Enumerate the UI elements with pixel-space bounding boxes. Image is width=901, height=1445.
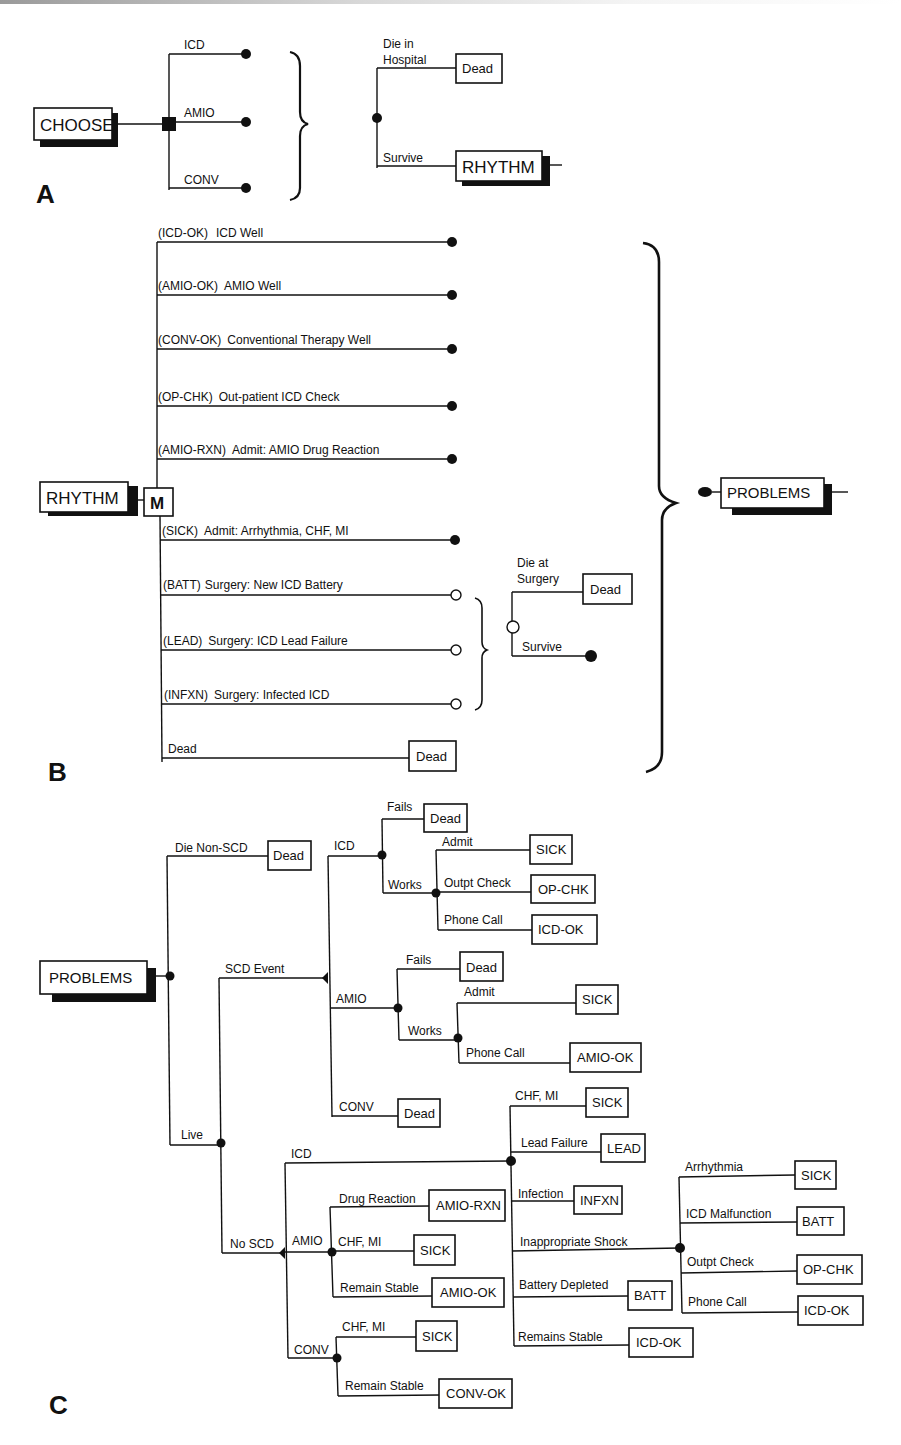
outcome-label: CHF, MI [338, 1235, 381, 1249]
outcome-label: Phone Call [444, 913, 503, 927]
problems-node-label: PROBLEMS [49, 969, 132, 986]
node-label: BATT [634, 1288, 666, 1303]
node-label: BATT [802, 1214, 834, 1229]
dead-node-label: Dead [430, 811, 461, 826]
markov-state-row[interactable]: (SICK)Admit: Arrhythmia, CHF, MI [160, 524, 460, 545]
node-label: LEAD [607, 1141, 641, 1156]
chance-node-icon [241, 117, 251, 127]
markov-state-row[interactable]: (OP-CHK)Out-patient ICD Check [157, 390, 457, 411]
markov-state-row[interactable]: (CONV-OK)Conventional Therapy Well [157, 333, 457, 354]
outcome-label: Admit [442, 835, 473, 849]
outcome-label: Inappropriate Shock [520, 1235, 628, 1249]
node-label: ICD-OK [804, 1303, 850, 1318]
chance-node-icon [166, 972, 175, 981]
markov-state-row[interactable]: (AMIO-OK)AMIO Well [157, 279, 457, 300]
scd-icd-label: ICD [334, 839, 355, 853]
outcome-label: Phone Call [688, 1295, 747, 1309]
noscd-amio-label: AMIO [292, 1234, 323, 1248]
outcome-label: CHF, MI [342, 1320, 385, 1334]
brace-icon [290, 52, 308, 200]
svg-text:(AMIO-OK)AMIO Well: (AMIO-OK)AMIO Well [158, 279, 281, 293]
dead-node-label: Dead [466, 960, 497, 975]
die-at-surgery-label-2: Surgery [517, 572, 559, 586]
noscd-icd-label: ICD [291, 1147, 312, 1161]
outcome-label: Remain Stable [345, 1379, 424, 1393]
node-label: SICK [420, 1243, 451, 1258]
node-label: AMIO-OK [440, 1285, 497, 1300]
panel-a: A CHOOSE ICD AMIO CONV Die in Hospital D… [34, 37, 562, 209]
panel-label-c: C [49, 1390, 68, 1420]
svg-text:(SICK)Admit: Arrhythmia, CHF,: (SICK)Admit: Arrhythmia, CHF, MI [162, 524, 349, 538]
markov-state-row[interactable]: (BATT)Surgery: New ICD Battery [161, 578, 461, 600]
node-label: ICD-OK [636, 1335, 682, 1350]
rhythm-node-label: RHYTHM [46, 489, 119, 508]
outcome-label: Arrhythmia [685, 1160, 743, 1174]
panel-label-b: B [48, 757, 67, 787]
chance-node-icon [372, 113, 382, 123]
markov-state-row-dead[interactable]: Dead Dead [162, 741, 456, 771]
dead-node-label: Dead [462, 61, 493, 76]
markov-state-row[interactable]: (INFXN)Surgery: Infected ICD [162, 688, 461, 709]
choose-node-label: CHOOSE [40, 116, 114, 135]
decision-tree-figure: A CHOOSE ICD AMIO CONV Die in Hospital D… [0, 0, 901, 1445]
outcome-label: CHF, MI [515, 1089, 558, 1103]
chance-node-icon [322, 972, 328, 984]
node-label: SICK [422, 1329, 453, 1344]
markov-state-row[interactable]: (AMIO-RXN)Admit: AMIO Drug Reaction [157, 443, 457, 464]
outcome-label: Lead Failure [521, 1136, 588, 1150]
node-label: OP-CHK [538, 882, 589, 897]
brace-icon [475, 598, 487, 710]
outcome-label: Drug Reaction [339, 1192, 416, 1206]
node-label: AMIO-OK [577, 1050, 634, 1065]
svg-text:(BATT)Surgery: New ICD Battery: (BATT)Surgery: New ICD Battery [163, 578, 343, 592]
chance-node-icon [279, 1247, 285, 1259]
node-label: AMIO-RXN [436, 1198, 501, 1213]
node-label: OP-CHK [803, 1262, 854, 1277]
outcome-label: Phone Call [466, 1046, 525, 1060]
rhythm-node-label: RHYTHM [462, 158, 535, 177]
markov-state-row[interactable]: (LEAD)Surgery: ICD Lead Failure [161, 634, 461, 655]
no-scd-label: No SCD [230, 1237, 274, 1251]
node-label: SICK [536, 842, 567, 857]
fails-label: Fails [387, 800, 412, 814]
scd-amio-label: AMIO [336, 992, 367, 1006]
outcome-label: Infection [518, 1187, 563, 1201]
node-label: INFXN [580, 1193, 619, 1208]
choice-amio: AMIO [184, 106, 215, 120]
chance-node-icon [585, 650, 597, 662]
markov-state-row[interactable]: (ICD-OK)ICD Well [157, 226, 457, 247]
fails-label: Fails [406, 953, 431, 967]
problems-node-label: PROBLEMS [727, 484, 810, 501]
die-in-hospital-label-1: Die in [383, 37, 414, 51]
panel-c: C PROBLEMS Die Non-SCD Dead Live SCD Eve… [40, 800, 863, 1420]
works-label: Works [408, 1024, 442, 1038]
panel-label-a: A [36, 179, 55, 209]
scd-event-label: SCD Event [225, 962, 285, 976]
outcome-label: Outpt Check [687, 1255, 755, 1269]
dead-node-label: Dead [590, 582, 621, 597]
chance-node-icon [432, 889, 441, 898]
live-label: Live [181, 1128, 203, 1142]
survive-label: Survive [383, 151, 423, 165]
dead-node-label: Dead [273, 848, 304, 863]
noscd-conv-label: CONV [294, 1343, 329, 1357]
svg-text:(INFXN)Surgery: Infected ICD: (INFXN)Surgery: Infected ICD [164, 688, 330, 702]
scd-conv-label: CONV [339, 1100, 374, 1114]
node-label: SICK [582, 992, 613, 1007]
node-label: CONV-OK [446, 1386, 506, 1401]
outcome-label: Outpt Check [444, 876, 512, 890]
svg-text:(ICD-OK)ICD Well: (ICD-OK)ICD Well [158, 226, 263, 240]
node-label: SICK [801, 1168, 832, 1183]
works-label: Works [388, 878, 422, 892]
svg-text:(CONV-OK)Conventional Therapy: (CONV-OK)Conventional Therapy Well [158, 333, 371, 347]
outcome-label: ICD Malfunction [686, 1207, 771, 1221]
chance-node-icon [507, 621, 519, 633]
outcome-label: Remain Stable [340, 1281, 419, 1295]
dead-branch-label: Dead [168, 742, 197, 756]
node-label: ICD-OK [538, 922, 584, 937]
die-in-hospital-label-2: Hospital [383, 53, 426, 67]
svg-text:(OP-CHK)Out-patient ICD Check: (OP-CHK)Out-patient ICD Check [158, 390, 340, 404]
markov-node-label: M [150, 494, 164, 513]
brace-icon [643, 243, 676, 772]
die-at-surgery-label-1: Die at [517, 556, 549, 570]
